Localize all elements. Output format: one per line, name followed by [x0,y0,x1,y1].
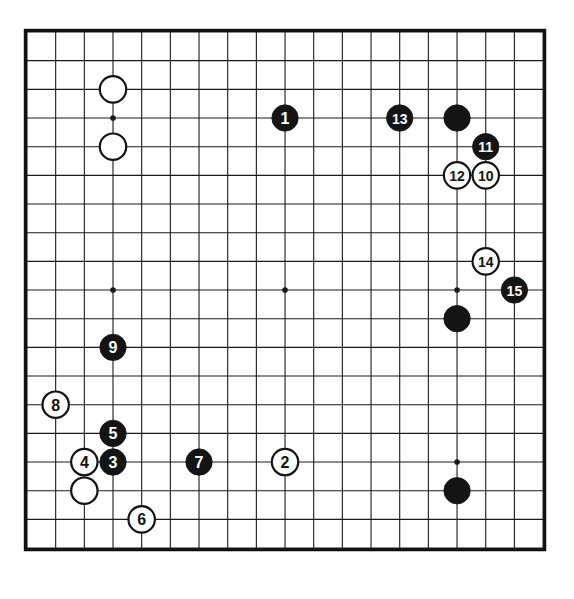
stone-move-number: 1 [281,110,290,127]
stone-black-move-7[interactable]: 7 [186,449,212,475]
stone-move-number: 8 [51,397,60,414]
star-point [282,287,288,293]
go-board-svg[interactable]: 113111210141598543726 [0,0,574,599]
stone-black-move-3[interactable]: 3 [100,449,126,475]
stone-move-number: 3 [109,454,118,471]
black-stone [444,306,470,332]
stone-move-number: 9 [109,339,118,356]
stone-move-number: 11 [478,139,493,155]
go-board-diagram: 113111210141598543726 [0,0,574,599]
stone-black-move-13[interactable]: 13 [387,105,413,131]
stone-white-move-8[interactable]: 8 [42,392,68,418]
stone-move-number: 6 [137,511,146,528]
star-point [110,287,116,293]
stone-move-number: 7 [195,454,204,471]
stone-move-number: 10 [478,168,494,184]
stone-black-move-11[interactable]: 11 [473,133,499,159]
stone-black-prior-top-right[interactable] [444,105,470,131]
stone-white-move-6[interactable]: 6 [128,506,154,532]
stone-black-move-5[interactable]: 5 [100,420,126,446]
stone-white-prior-bottom-left[interactable] [71,478,97,504]
stone-move-number: 4 [80,454,89,471]
stone-move-number: 12 [449,168,465,184]
star-point [454,287,460,293]
stone-move-number: 2 [281,454,290,471]
stone-white-prior-top-b[interactable] [100,133,126,159]
white-stone [100,76,126,102]
stone-move-number: 13 [392,111,408,127]
stone-white-move-12[interactable]: 12 [444,162,470,188]
stone-move-number: 14 [478,254,494,270]
stone-black-move-15[interactable]: 15 [501,277,527,303]
stone-move-number: 5 [109,425,118,442]
stone-black-prior-bottom-right[interactable] [444,478,470,504]
white-stone [71,478,97,504]
black-stone [444,478,470,504]
stone-white-move-14[interactable]: 14 [473,248,499,274]
stone-black-prior-right[interactable] [444,306,470,332]
stone-black-move-1[interactable]: 1 [272,105,298,131]
stone-white-move-10[interactable]: 10 [473,162,499,188]
stone-move-number: 15 [507,283,523,299]
star-point [454,459,460,465]
stone-white-prior-top-a[interactable] [100,76,126,102]
stone-black-move-9[interactable]: 9 [100,334,126,360]
star-point [110,115,116,121]
black-stone [444,105,470,131]
stone-white-move-4[interactable]: 4 [71,449,97,475]
stone-white-move-2[interactable]: 2 [272,449,298,475]
white-stone [100,133,126,159]
